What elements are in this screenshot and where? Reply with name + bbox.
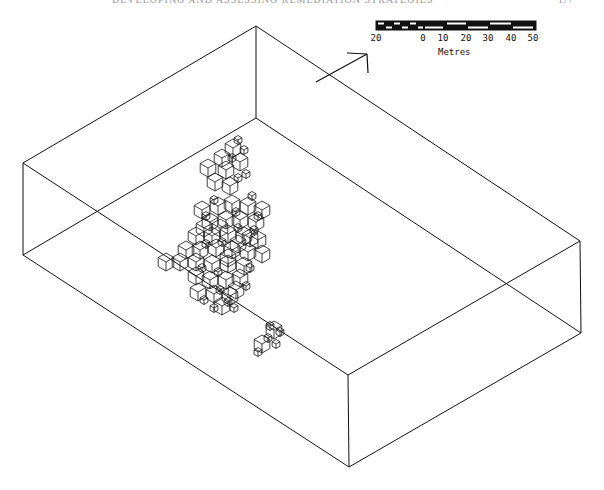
block-cube-icon	[230, 304, 238, 313]
scale-bar	[376, 21, 536, 30]
block-cube-icon	[188, 253, 204, 271]
block-cube-icon	[214, 149, 230, 167]
box-top-face	[23, 26, 580, 375]
block-cube-icon	[254, 245, 270, 263]
scale-tick-label: 20	[461, 33, 472, 43]
block-cube-icon	[234, 224, 242, 233]
scale-bar-body	[376, 21, 536, 30]
block-cube-icon	[264, 334, 272, 343]
scale-tick-label: 20	[371, 33, 382, 43]
block-cube-icon	[210, 196, 218, 205]
block-cube-icon	[248, 192, 256, 201]
block-cube-icon	[200, 296, 208, 305]
block-cube-icon	[207, 173, 223, 191]
block-cube-icon	[222, 177, 238, 195]
block-cube-icon	[228, 281, 244, 299]
block-cube-icon	[190, 283, 206, 301]
scale-tick-label: 30	[483, 33, 494, 43]
north-arrow-icon	[316, 53, 368, 82]
block-cube-icon	[240, 146, 248, 155]
block-cube-icon	[228, 154, 236, 163]
block-cube-icon	[230, 235, 246, 253]
scale-tick-label: 50	[528, 33, 539, 43]
contaminated-blocks-cluster	[158, 136, 284, 357]
block-cube-icon	[196, 219, 212, 237]
block-cube-icon	[272, 340, 280, 349]
box-vertical-edge	[580, 241, 581, 333]
box-vertical-edge	[348, 375, 349, 467]
block-cube-icon	[218, 238, 226, 247]
block-cube-icon	[202, 212, 210, 221]
scale-bar-title: Metres	[438, 47, 471, 57]
block-cube-icon	[198, 264, 206, 273]
block-cube-icon	[232, 269, 248, 287]
site-bounding-box	[23, 26, 581, 467]
block-cube-icon	[218, 271, 234, 289]
scale-tick-label: 40	[506, 33, 517, 43]
box-bottom-face	[23, 118, 581, 467]
block-cube-icon	[234, 174, 242, 183]
block-cube-icon	[246, 264, 254, 273]
block-cube-icon	[242, 170, 250, 179]
wireframe-figure	[0, 0, 604, 490]
scale-tick-label: 10	[438, 33, 449, 43]
block-cube-icon	[214, 268, 222, 277]
scale-tick-label: 0	[420, 33, 425, 43]
block-cube-icon	[232, 153, 248, 171]
block-cube-icon	[204, 255, 220, 273]
